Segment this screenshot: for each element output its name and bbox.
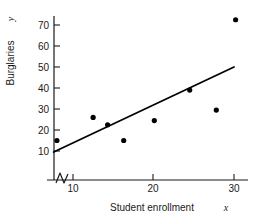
y-tick-label-10: 10 <box>38 146 50 157</box>
x-axis-variable: x <box>223 202 229 213</box>
data-point <box>152 118 157 123</box>
y-tick-label-60: 60 <box>38 41 50 52</box>
data-point <box>121 138 126 143</box>
y-tick-label-30: 30 <box>38 104 50 115</box>
y-axis-title: Burglaries <box>5 40 16 85</box>
axis-break-icon <box>56 173 68 183</box>
x-tick-marks <box>73 174 234 180</box>
y-tick-marks <box>54 25 60 151</box>
data-point-group <box>54 17 238 143</box>
data-point <box>105 122 110 127</box>
y-tick-label-40: 40 <box>38 83 50 94</box>
x-axis-title: Student enrollment <box>110 202 194 213</box>
data-point <box>54 138 59 143</box>
data-point <box>91 115 96 120</box>
y-tick-label-70: 70 <box>38 20 50 31</box>
chart-canvas: 70 60 50 40 30 20 10 10 20 30 Student en… <box>0 0 257 220</box>
x-tick-label-10: 10 <box>67 183 79 194</box>
y-tick-label-50: 50 <box>38 62 50 73</box>
x-tick-label-20: 20 <box>147 183 159 194</box>
data-point <box>233 17 238 22</box>
scatter-plot-figure: 70 60 50 40 30 20 10 10 20 30 Student en… <box>0 0 257 220</box>
y-axis-variable: y <box>5 16 16 22</box>
data-point <box>187 88 192 93</box>
regression-line <box>54 67 234 152</box>
data-point <box>214 107 219 112</box>
x-tick-label-30: 30 <box>228 183 240 194</box>
y-tick-label-20: 20 <box>38 125 50 136</box>
